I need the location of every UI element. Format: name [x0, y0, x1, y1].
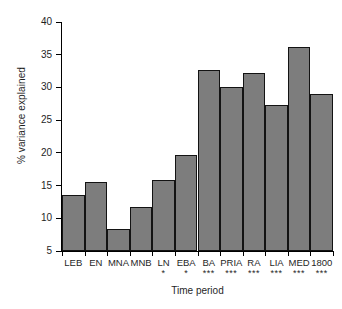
x-tick [130, 251, 131, 256]
bar [107, 229, 130, 251]
x-tick [310, 251, 311, 256]
bar [130, 207, 153, 251]
bar [243, 73, 266, 251]
x-tick [152, 251, 153, 256]
x-tick [198, 251, 199, 256]
bar [310, 94, 333, 251]
bar [175, 155, 198, 251]
bar [85, 182, 108, 251]
x-tick [265, 251, 266, 256]
significance-marker: *** [306, 269, 337, 278]
y-tick-label-10: 10 [12, 213, 52, 223]
x-tick [220, 251, 221, 256]
y-tick-label-5: 5 [12, 246, 52, 256]
bar [220, 87, 243, 251]
y-tick-label-20: 20 [12, 148, 52, 158]
y-tick-label-30: 30 [12, 82, 52, 92]
bar [265, 105, 288, 251]
bar [288, 47, 311, 251]
y-tick-label-15: 15 [12, 181, 52, 191]
x-tick [288, 251, 289, 256]
x-tick-end [333, 251, 334, 256]
y-tick-label-25: 25 [12, 115, 52, 125]
x-tick-label: 1800 [306, 258, 337, 268]
x-tick [107, 251, 108, 256]
x-tick [175, 251, 176, 256]
plot-area [62, 22, 333, 251]
x-tick [85, 251, 86, 256]
x-tick [62, 251, 63, 256]
y-tick-label-35: 35 [12, 50, 52, 60]
bar [198, 70, 221, 251]
bar [152, 180, 175, 251]
y-tick-label-40: 40 [12, 17, 52, 27]
bar [62, 195, 85, 251]
x-axis-label: Time period [62, 285, 333, 296]
x-tick [243, 251, 244, 256]
bar-chart-figure: % variance explained 40 35 30 25 20 15 1… [0, 0, 342, 309]
